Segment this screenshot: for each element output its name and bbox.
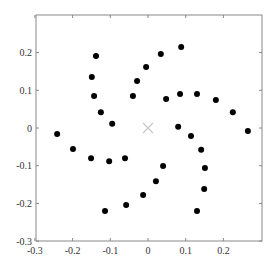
data-point bbox=[202, 165, 208, 171]
data-point bbox=[153, 178, 159, 184]
data-point bbox=[201, 186, 207, 192]
data-point bbox=[140, 192, 146, 198]
y-tick-label: 0.2 bbox=[20, 47, 33, 58]
y-tick-label: -0.3 bbox=[16, 236, 32, 247]
data-point bbox=[198, 147, 204, 153]
data-point bbox=[98, 109, 104, 115]
x-tick-label: 0.2 bbox=[217, 245, 230, 256]
data-point bbox=[122, 155, 128, 161]
data-point bbox=[89, 74, 95, 80]
data-point bbox=[188, 133, 194, 139]
y-tick-label: 0 bbox=[27, 123, 32, 134]
y-tick-label: -0.1 bbox=[16, 160, 32, 171]
data-point bbox=[143, 64, 149, 70]
data-point bbox=[91, 93, 97, 99]
data-point bbox=[102, 208, 108, 214]
data-point bbox=[109, 121, 115, 127]
data-points bbox=[54, 44, 251, 214]
data-point bbox=[175, 124, 181, 130]
plot-frame bbox=[36, 15, 262, 241]
data-point bbox=[123, 202, 129, 208]
y-tick-label: 0.1 bbox=[20, 85, 33, 96]
x-tick-label: -0.1 bbox=[102, 245, 118, 256]
data-point bbox=[194, 91, 200, 97]
data-point bbox=[163, 96, 169, 102]
x-tick-label: 0 bbox=[146, 245, 151, 256]
data-point bbox=[70, 146, 76, 152]
data-point bbox=[88, 155, 94, 161]
data-point bbox=[54, 131, 60, 137]
data-point bbox=[245, 128, 251, 134]
scatter-chart: -0.3-0.2-0.100.10.2-0.3-0.2-0.100.10.2 bbox=[0, 0, 276, 272]
data-point bbox=[134, 78, 140, 84]
data-point bbox=[177, 91, 183, 97]
data-point bbox=[178, 44, 184, 50]
data-point bbox=[160, 163, 166, 169]
x-tick-label: 0.1 bbox=[179, 245, 192, 256]
tick-labels: -0.3-0.2-0.100.10.2-0.3-0.2-0.100.10.2 bbox=[16, 47, 229, 256]
data-point bbox=[194, 208, 200, 214]
data-point bbox=[93, 53, 99, 59]
data-point bbox=[130, 93, 136, 99]
x-tick-label: -0.3 bbox=[27, 245, 43, 256]
x-tick-label: -0.2 bbox=[65, 245, 81, 256]
data-point bbox=[213, 97, 219, 103]
data-point bbox=[158, 51, 164, 57]
data-point bbox=[230, 109, 236, 115]
y-tick-label: -0.2 bbox=[16, 198, 32, 209]
data-point bbox=[106, 158, 112, 164]
